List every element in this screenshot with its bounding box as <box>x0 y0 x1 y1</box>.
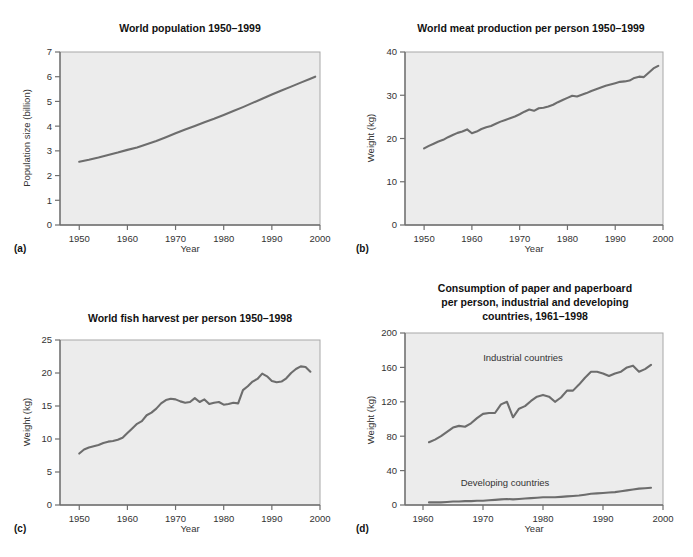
x-tick-label-b-4: 1990 <box>605 233 626 244</box>
y-tick-label-b-3: 30 <box>386 90 397 101</box>
y-tick-label-d-2: 80 <box>386 431 397 442</box>
x-tick-label-b-1: 1960 <box>461 233 482 244</box>
y-tick-label-a-1: 1 <box>47 195 52 206</box>
x-tick-label-a-4: 1990 <box>261 233 282 244</box>
panel-a-title: World population 1950–1999 <box>119 22 261 34</box>
x-tick-label-c-5: 2000 <box>309 513 330 524</box>
panel-d-ylabel: Weight (kg) <box>365 396 376 444</box>
figure-grid: World population 1950–1999 0123456719501… <box>0 0 693 557</box>
y-tick-label-d-3: 120 <box>381 396 397 407</box>
y-tick-label-c-1: 5 <box>47 466 52 477</box>
panel-b-xlabel: Year <box>524 243 543 254</box>
panel-a-plot <box>60 52 320 225</box>
panel-c-xlabel: Year <box>180 523 199 534</box>
y-tick-label-b-2: 20 <box>386 133 397 144</box>
panel-a: World population 1950–1999 0123456719501… <box>0 0 350 280</box>
annotation-industrial-countries: Industrial countries <box>483 352 563 363</box>
y-tick-label-c-0: 0 <box>47 499 52 510</box>
panel-d-title-line-3: countries, 1961–1998 <box>482 310 588 322</box>
panel-d: Consumption of paper and paperboard per … <box>350 280 693 557</box>
y-tick-label-a-5: 5 <box>47 96 52 107</box>
x-tick-label-c-1: 1960 <box>117 513 138 524</box>
y-tick-label-c-2: 10 <box>41 433 52 444</box>
x-tick-label-c-0: 1950 <box>69 513 90 524</box>
x-tick-label-b-5: 2000 <box>652 233 673 244</box>
panel-d-label: (d) <box>356 523 369 534</box>
y-tick-label-a-2: 2 <box>47 170 52 181</box>
chart-c-svg: World fish harvest per person 1950–1998 … <box>0 280 350 557</box>
x-tick-label-a-3: 1980 <box>213 233 234 244</box>
panel-a-ylabel: Population size (billion) <box>21 89 32 187</box>
panel-b-label: (b) <box>356 243 369 254</box>
y-tick-label-b-0: 0 <box>392 219 397 230</box>
x-tick-label-b-3: 1980 <box>557 233 578 244</box>
x-tick-label-c-4: 1990 <box>261 513 282 524</box>
panel-d-title-line-2: per person, industrial and developing <box>441 296 628 308</box>
panel-a-plot-background <box>60 52 320 225</box>
x-tick-label-b-0: 1950 <box>414 233 435 244</box>
x-tick-label-d-0: 1960 <box>412 513 433 524</box>
panel-d-title-line-1: Consumption of paper and paperboard <box>438 282 632 294</box>
y-tick-label-c-4: 20 <box>41 367 52 378</box>
panel-b: World meat production per person 1950–19… <box>350 0 693 280</box>
x-tick-label-a-0: 1950 <box>69 233 90 244</box>
y-tick-label-a-0: 0 <box>47 219 52 230</box>
y-tick-label-d-4: 160 <box>381 362 397 373</box>
x-tick-label-a-5: 2000 <box>309 233 330 244</box>
y-tick-label-d-5: 200 <box>381 327 397 338</box>
panel-a-xlabel: Year <box>180 243 199 254</box>
y-tick-label-d-0: 0 <box>392 499 397 510</box>
y-tick-label-a-6: 6 <box>47 71 52 82</box>
y-tick-label-b-1: 10 <box>386 176 397 187</box>
panel-b-title: World meat production per person 1950–19… <box>417 22 645 34</box>
chart-b-svg: World meat production per person 1950–19… <box>350 0 693 280</box>
chart-d-svg: Consumption of paper and paperboard per … <box>350 280 693 557</box>
x-tick-label-d-4: 2000 <box>652 513 673 524</box>
panel-c-ylabel: Weight (kg) <box>21 398 32 446</box>
y-tick-label-a-4: 4 <box>47 121 52 132</box>
panel-c-plot-background <box>60 340 320 505</box>
panel-c-plot <box>60 340 320 505</box>
x-tick-label-d-1: 1970 <box>472 513 493 524</box>
chart-a-svg: World population 1950–1999 0123456719501… <box>0 0 350 280</box>
x-tick-label-a-1: 1960 <box>117 233 138 244</box>
panel-d-xlabel: Year <box>524 523 543 534</box>
y-tick-label-a-7: 7 <box>47 46 52 57</box>
y-tick-label-c-5: 25 <box>41 334 52 345</box>
annotation-developing-countries: Developing countries <box>461 477 550 488</box>
y-tick-label-d-1: 40 <box>386 465 397 476</box>
y-tick-label-c-3: 15 <box>41 400 52 411</box>
y-tick-label-a-3: 3 <box>47 145 52 156</box>
panel-a-label: (a) <box>14 243 26 254</box>
panel-c-label: (c) <box>14 523 26 534</box>
y-tick-label-b-4: 40 <box>386 46 397 57</box>
x-tick-label-d-3: 1990 <box>592 513 613 524</box>
panel-c-title: World fish harvest per person 1950–1998 <box>88 312 292 324</box>
panel-c: World fish harvest per person 1950–1998 … <box>0 280 350 557</box>
x-tick-label-c-3: 1980 <box>213 513 234 524</box>
panel-b-ylabel: Weight (kg) <box>365 114 376 162</box>
